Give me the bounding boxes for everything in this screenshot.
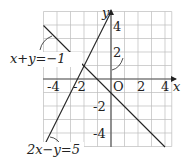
y-tick-neg2: -2 — [93, 99, 106, 114]
y-tick-4: 4 — [113, 19, 121, 34]
coordinate-plane: y x O -4 -2 2 4 4 2 -2 -4 x+y=−1 2x−y=5 — [0, 0, 189, 162]
y-tick-2: 2 — [113, 45, 121, 60]
x-axis-label: x — [173, 79, 181, 94]
y-tick-neg4: -4 — [93, 126, 106, 141]
graph-figure: y x O -4 -2 2 4 4 2 -2 -4 x+y=−1 2x−y=5 — [0, 0, 189, 162]
label-2x-minus-y: 2x−y=5 — [26, 142, 80, 157]
label-x-plus-y: x+y=−1 — [10, 51, 66, 66]
leader-x-plus-y — [40, 36, 52, 50]
x-tick-4: 4 — [161, 79, 169, 94]
y-axis-label: y — [101, 5, 110, 20]
origin-label: O — [113, 79, 124, 94]
x-tick-neg2: -2 — [73, 79, 86, 94]
x-tick-neg4: -4 — [47, 79, 60, 94]
x-tick-2: 2 — [137, 79, 145, 94]
